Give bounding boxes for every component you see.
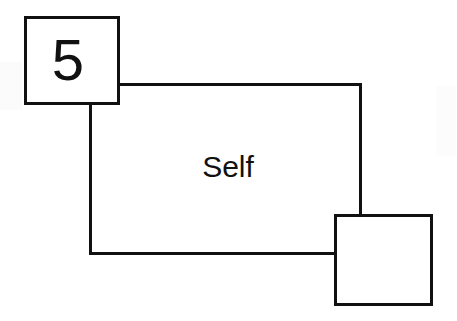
diagram-canvas: 5 Self — [0, 0, 457, 321]
self-loop-diagram: 5 Self — [0, 0, 457, 321]
node-state-5-label: 5 — [52, 27, 84, 92]
edge-self-loop-label: Self — [202, 150, 254, 183]
node-state-blank[interactable] — [336, 216, 432, 305]
